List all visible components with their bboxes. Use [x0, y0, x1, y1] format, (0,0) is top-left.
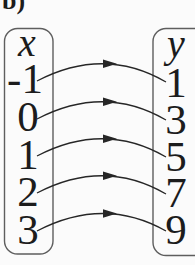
- range-values: 1 3 5 7 9: [165, 59, 187, 253]
- diagram-canvas: b) x y -1 0 1 2 3 1 3 5 7 9: [0, 0, 195, 265]
- arrowhead-icon: [103, 209, 117, 218]
- arrowhead-icon: [103, 98, 117, 107]
- mapping-arrow: [37, 214, 166, 232]
- arrowhead-icon: [103, 172, 117, 181]
- domain-values: -1 0 1 2 3: [7, 55, 43, 253]
- mapping-arrow: [37, 102, 166, 120]
- domain-value: 3: [17, 206, 39, 253]
- mapping-arrow: [37, 64, 166, 82]
- mapping-diagram: b) x y -1 0 1 2 3 1 3 5 7 9: [0, 0, 195, 265]
- figure-label: b): [2, 0, 25, 15]
- mapping-arrow: [37, 139, 166, 157]
- range-value: 9: [165, 206, 187, 253]
- mapping-arrows: [37, 60, 166, 232]
- arrowhead-icon: [103, 135, 117, 144]
- mapping-arrow: [37, 176, 166, 194]
- arrowhead-icon: [103, 60, 117, 69]
